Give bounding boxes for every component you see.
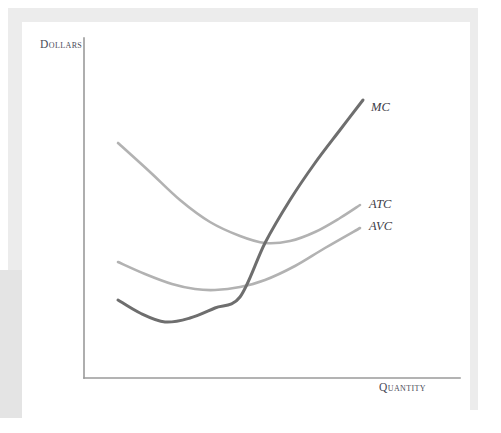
x-axis-label: Quantity xyxy=(379,381,426,393)
curve-atc xyxy=(118,143,360,243)
curve-label-avc: AVC xyxy=(369,219,392,234)
curve-avc xyxy=(118,228,360,290)
figure-screen: Dollars Quantity MC ATC AVC xyxy=(0,0,501,433)
curve-label-atc: ATC xyxy=(369,197,391,212)
y-axis-label: Dollars xyxy=(40,38,82,50)
curve-label-mc: MC xyxy=(371,100,390,115)
curve-mc xyxy=(118,100,363,322)
cost-curve-plot xyxy=(0,0,501,433)
